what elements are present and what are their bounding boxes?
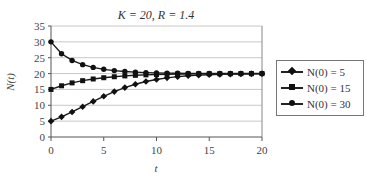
data-series <box>48 39 266 124</box>
legend-label: N(0) = 15 <box>307 82 350 94</box>
svg-text:35: 35 <box>34 20 46 32</box>
svg-text:15: 15 <box>204 144 216 156</box>
diamond-marker-icon <box>281 65 303 79</box>
square-marker-icon <box>281 81 303 95</box>
circle-marker-icon <box>281 97 303 111</box>
axes: 0510152025303505101520 <box>34 20 268 156</box>
svg-text:25: 25 <box>34 52 46 64</box>
svg-text:10: 10 <box>34 99 46 111</box>
svg-text:5: 5 <box>40 115 46 127</box>
svg-text:0: 0 <box>40 131 46 143</box>
legend: N(0) = 5 N(0) = 15 N(0) = 30 <box>276 60 364 116</box>
svg-text:0: 0 <box>48 144 54 156</box>
x-axis-label: t <box>154 162 158 174</box>
legend-label: N(0) = 30 <box>307 98 350 110</box>
svg-text:20: 20 <box>34 68 46 80</box>
svg-text:10: 10 <box>151 144 163 156</box>
legend-item-n0-30: N(0) = 30 <box>281 96 350 112</box>
legend-label: N(0) = 5 <box>307 66 345 78</box>
svg-text:15: 15 <box>34 83 46 95</box>
svg-text:20: 20 <box>257 144 269 156</box>
legend-item-n0-15: N(0) = 15 <box>281 80 350 96</box>
chart-title: K = 20, R = 1.4 <box>117 8 195 22</box>
svg-text:5: 5 <box>101 144 107 156</box>
svg-text:30: 30 <box>34 36 46 48</box>
legend-item-n0-5: N(0) = 5 <box>281 64 345 80</box>
y-axis-label: N(t) <box>4 73 17 92</box>
